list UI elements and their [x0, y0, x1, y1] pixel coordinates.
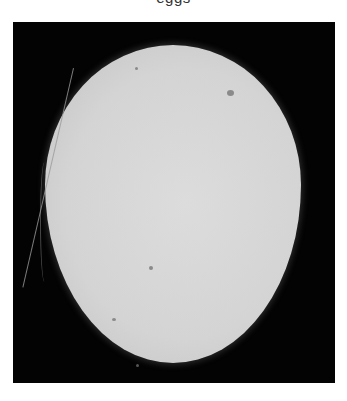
photo-frame [13, 22, 335, 383]
egg [45, 45, 301, 363]
egg-spot [136, 364, 139, 367]
egg-spot [135, 67, 138, 70]
egg-spot [227, 90, 234, 96]
caption-text: eggs [0, 0, 347, 6]
egg-spot [149, 266, 153, 270]
egg-spot [112, 318, 116, 321]
